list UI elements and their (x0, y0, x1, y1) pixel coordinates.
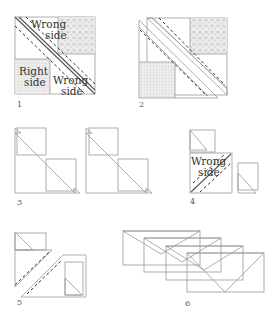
step-number: 3 (17, 198, 22, 207)
step-number: 5 (17, 298, 22, 307)
step-1: Wrong side Right side Wrong side 1 (15, 17, 95, 109)
stitch-line (15, 251, 50, 285)
step-number: 4 (190, 197, 195, 206)
triangle-patch (15, 133, 75, 193)
svg-text:side: side (24, 76, 46, 88)
step-number: 6 (185, 299, 190, 308)
print-block-bottom-left (139, 62, 175, 98)
svg-text:side: side (198, 166, 220, 178)
print-block-top-right (190, 18, 227, 54)
step-2: 2 (139, 18, 227, 109)
step-number: 2 (139, 100, 144, 109)
step-5: 5 (15, 232, 86, 307)
hst-unit-4 (187, 253, 264, 292)
step-3: 3 (15, 128, 152, 207)
hst-unit-3 (166, 246, 243, 280)
svg-text:side: side (61, 85, 83, 97)
stitch-line (27, 260, 62, 294)
step-6: 6 (123, 231, 264, 308)
step-4: Wrong side 4 (190, 130, 258, 206)
step-number: 1 (17, 100, 22, 109)
svg-text:side: side (45, 29, 67, 41)
diagram-canvas: Wrong side Right side Wrong side 1 2 (0, 0, 274, 316)
triangle-patch (86, 133, 146, 193)
